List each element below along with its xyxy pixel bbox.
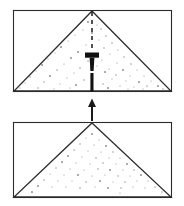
stipple-dot bbox=[100, 28, 101, 29]
stipple-dot bbox=[51, 186, 52, 187]
stipple-dot bbox=[150, 80, 151, 81]
stipple-dot bbox=[119, 157, 120, 158]
stipple-dot bbox=[99, 180, 101, 182]
stipple-dot bbox=[107, 187, 109, 189]
stipple-dot bbox=[122, 69, 124, 71]
stipple-dot bbox=[123, 56, 124, 57]
stipple-dot bbox=[19, 87, 20, 88]
stipple-dot bbox=[126, 163, 128, 165]
stipple-dot bbox=[49, 173, 50, 174]
stipple-dot bbox=[98, 39, 99, 40]
stipple-dot bbox=[41, 64, 43, 66]
stipple-dot bbox=[119, 85, 120, 86]
stipple-dot bbox=[157, 85, 159, 87]
stipple-dot bbox=[91, 32, 93, 34]
stipple-dot bbox=[127, 88, 128, 89]
nail-shank-upper bbox=[90, 58, 95, 71]
stipple-dot bbox=[105, 35, 106, 36]
stipple-dot bbox=[55, 167, 56, 168]
stipple-dot bbox=[129, 75, 130, 76]
stipple-dot bbox=[89, 163, 90, 164]
stipple-dot bbox=[29, 76, 30, 77]
stipple-dot bbox=[136, 180, 137, 181]
stipple-dot bbox=[37, 87, 38, 88]
stipple-dot bbox=[60, 46, 62, 48]
stipple-dot bbox=[70, 57, 72, 59]
stipple-dot bbox=[94, 186, 95, 187]
stipple-dot bbox=[85, 137, 86, 138]
stipple-dot bbox=[83, 79, 84, 80]
stipple-dot bbox=[79, 187, 80, 188]
stipple-dot bbox=[109, 169, 111, 171]
stipple-dot bbox=[161, 191, 162, 192]
stipple-dot bbox=[73, 149, 74, 150]
stipple-dot bbox=[59, 83, 60, 84]
stipple-dot bbox=[107, 87, 109, 89]
stipple-dot bbox=[83, 169, 84, 170]
stipple-dot bbox=[116, 62, 117, 63]
stipple-dot bbox=[53, 88, 54, 89]
stipple-dot bbox=[61, 161, 63, 163]
stipple-dot bbox=[120, 187, 121, 188]
stipple-dot bbox=[100, 151, 101, 152]
stipple-dot bbox=[65, 186, 66, 187]
stipple-dot bbox=[108, 68, 109, 69]
stipple-dot bbox=[43, 81, 44, 82]
stipple-dot bbox=[35, 70, 36, 71]
stipple-dot bbox=[154, 186, 155, 187]
stipple-dot bbox=[47, 58, 48, 59]
diagram-canvas bbox=[0, 0, 184, 206]
stipple-dot bbox=[56, 69, 57, 70]
stipple-dot bbox=[85, 44, 86, 45]
figure-root bbox=[0, 0, 184, 206]
stipple-dot bbox=[96, 65, 97, 66]
stipple-dot bbox=[105, 145, 107, 147]
stipple-dot bbox=[122, 169, 123, 170]
stipple-dot bbox=[82, 29, 83, 30]
stipple-dot bbox=[112, 151, 113, 152]
nail-shank-lower bbox=[90, 73, 93, 92]
stipple-dot bbox=[66, 77, 67, 78]
stipple-dot bbox=[71, 180, 72, 181]
stipple-dot bbox=[69, 87, 70, 88]
stipple-dot bbox=[73, 72, 74, 73]
stipple-dot bbox=[129, 175, 130, 176]
stipple-dot bbox=[77, 174, 79, 176]
stipple-dot bbox=[63, 174, 64, 175]
stipple-dot bbox=[87, 150, 88, 151]
stipple-dot bbox=[130, 63, 131, 64]
stipple-dot bbox=[136, 69, 137, 70]
stipple-dot bbox=[111, 78, 112, 79]
stipple-dot bbox=[77, 51, 79, 53]
stipple-dot bbox=[97, 168, 98, 169]
stipple-dot bbox=[57, 180, 58, 181]
stipple-dot bbox=[63, 63, 64, 64]
stipple-dot bbox=[24, 82, 25, 83]
stipple-dot bbox=[102, 162, 103, 163]
stipple-dot bbox=[95, 157, 96, 158]
stipple-dot bbox=[124, 181, 125, 182]
stipple-dot bbox=[79, 143, 80, 144]
stipple-dot bbox=[67, 40, 68, 41]
stipple-dot bbox=[85, 181, 86, 182]
stipple-dot bbox=[75, 84, 77, 86]
stipple-dot bbox=[43, 179, 44, 180]
stipple-dot bbox=[91, 175, 92, 176]
stipple-dot bbox=[102, 83, 103, 84]
stipple-dot bbox=[138, 81, 140, 83]
stipple-dot bbox=[125, 80, 126, 81]
stipple-dot bbox=[87, 21, 89, 23]
stipple-dot bbox=[147, 180, 148, 181]
stipple-dot bbox=[108, 157, 109, 158]
stipple-dot bbox=[117, 49, 118, 50]
stipple-dot bbox=[74, 34, 75, 35]
stipple-dot bbox=[81, 156, 82, 157]
stipple-dot bbox=[133, 86, 134, 87]
stipple-dot bbox=[91, 133, 93, 135]
stipple-dot bbox=[96, 24, 97, 25]
stipple-dot bbox=[54, 52, 55, 53]
stipple-dot bbox=[119, 192, 120, 193]
stipple-dot bbox=[109, 53, 110, 54]
stipple-dot bbox=[104, 174, 105, 175]
stipple-dot bbox=[101, 59, 102, 60]
